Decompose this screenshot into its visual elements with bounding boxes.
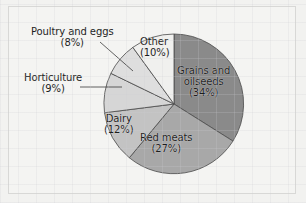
slice-label-other-percent: (10%) [140, 47, 170, 58]
slice-label-poultry-and-eggs-percent: (8%) [31, 37, 114, 48]
slice-label-grains-and-oilseeds-name: Grains and [177, 65, 230, 76]
slice-label-red-meats-percent: (27%) [140, 143, 192, 154]
slice-label-grains-and-oilseeds: Grains and oilseeds (34%) [177, 65, 230, 98]
slice-label-poultry-and-eggs-name: Poultry and eggs [31, 26, 114, 37]
slice-label-horticulture: Horticulture (9%) [24, 72, 82, 94]
slice-label-dairy-name: Dairy [106, 113, 132, 124]
slice-label-red-meats-name: Red meats [140, 132, 192, 143]
slice-label-dairy-percent: (12%) [104, 124, 134, 135]
slice-label-grains-and-oilseeds-percent: (34%) [177, 87, 230, 98]
slice-label-horticulture-name: Horticulture [24, 72, 82, 83]
slice-label-horticulture-percent: (9%) [24, 83, 82, 94]
slice-label-grains-and-oilseeds-name2: oilseeds [177, 76, 230, 87]
slice-label-other: Other (10%) [140, 36, 170, 58]
slice-label-dairy: Dairy (12%) [104, 113, 134, 135]
slice-label-red-meats: Red meats (27%) [140, 132, 192, 154]
pie-chart-figure: Poultry and eggs (8%) Horticulture (9%) … [0, 0, 306, 203]
slice-label-other-name: Other [140, 36, 168, 47]
slice-label-poultry-and-eggs: Poultry and eggs (8%) [31, 26, 114, 48]
